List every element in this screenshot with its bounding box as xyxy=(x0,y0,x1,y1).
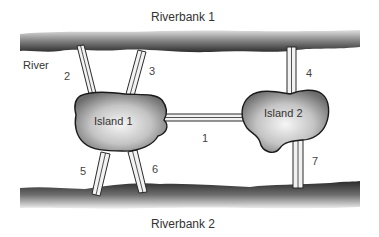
bridge-2-label: 2 xyxy=(64,71,70,82)
riverbank-1-label: Riverbank 1 xyxy=(151,11,215,23)
bridge-4-label: 4 xyxy=(306,68,312,79)
bridge-1-label: 1 xyxy=(202,133,208,144)
bridge-2 xyxy=(77,45,96,94)
bridge-3 xyxy=(126,50,146,96)
bridge-1 xyxy=(160,114,245,121)
riverbank-2-shape xyxy=(20,181,360,209)
island-1-label: Island 1 xyxy=(94,116,133,127)
bridge-6-label: 6 xyxy=(152,164,158,175)
bridge-5-label: 5 xyxy=(80,166,86,177)
river-label: River xyxy=(23,60,49,71)
bridge-3-label: 3 xyxy=(149,66,155,77)
bridge-4 xyxy=(287,47,296,95)
bridge-7-label: 7 xyxy=(312,156,318,167)
bridge-7 xyxy=(293,140,303,188)
island-2-label: Island 2 xyxy=(264,108,303,119)
riverbank-2-label: Riverbank 2 xyxy=(151,218,215,230)
island-2-shape xyxy=(242,90,329,152)
riverbank-1-shape xyxy=(20,30,360,52)
konigsberg-bridges-diagram xyxy=(0,0,379,237)
